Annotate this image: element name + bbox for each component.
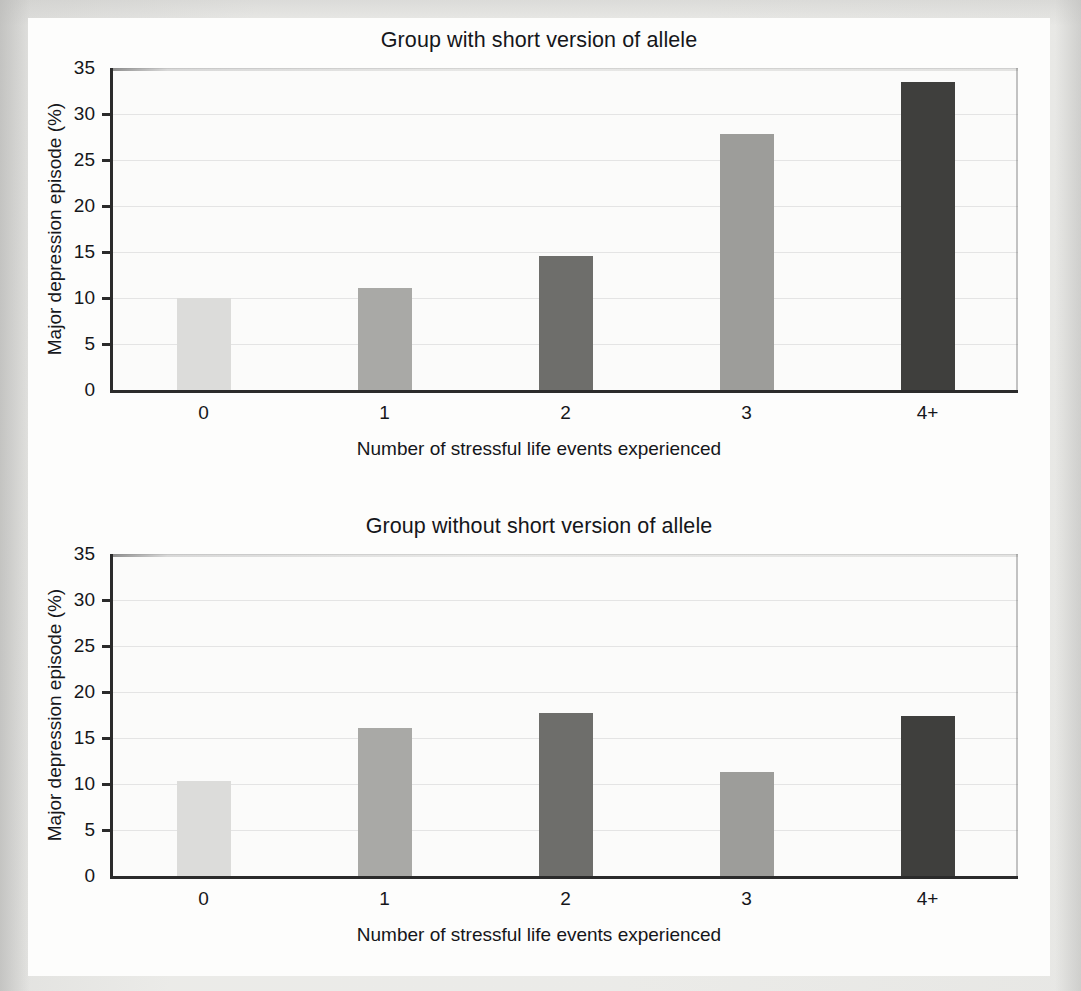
y-axis-tick-label: 25 [74,635,95,657]
plot-area: Major depression episode (%)051015202530… [110,554,1018,879]
plot-area: Major depression episode (%)051015202530… [110,68,1018,393]
x-axis-tick-label: 0 [198,402,209,424]
y-axis-tick-label: 20 [74,195,95,217]
y-axis-tick [102,343,113,346]
y-axis-tick [102,737,113,740]
gridline [113,68,1018,69]
bar [177,298,231,390]
y-axis-tick [102,783,113,786]
y-axis-tick [102,691,113,694]
y-axis-tick-label: 25 [74,149,95,171]
y-axis-tick-label: 35 [74,543,95,565]
gridline [113,206,1018,207]
y-axis-tick-label: 0 [84,865,95,887]
chart-title: Group with short version of allele [28,28,1050,53]
y-axis-title: Major depression episode (%) [44,64,66,394]
x-axis-tick-label: 1 [379,402,390,424]
gridline [113,252,1018,253]
y-axis-tick [102,829,113,832]
chart-panel-without-allele: Group without short version of allele Ma… [28,506,1050,976]
y-axis-tick-label: 30 [74,589,95,611]
x-axis-tick-label: 0 [198,888,209,910]
bar [539,256,593,390]
gridline [113,646,1018,647]
y-axis-tick [102,297,113,300]
x-axis-tick-label: 3 [741,402,752,424]
chart-panel-with-allele: Group with short version of allele Major… [28,20,1050,490]
figure-container: Group with short version of allele Major… [28,18,1050,976]
y-axis-tick-label: 30 [74,103,95,125]
y-axis-tick [102,599,113,602]
y-axis-title: Major depression episode (%) [44,550,66,880]
x-axis-tick-label: 3 [741,888,752,910]
y-axis-tick-label: 5 [84,333,95,355]
x-axis-tick-label: 4+ [917,402,939,424]
page-right-edge-shadow [1055,0,1081,991]
y-axis-tick [102,159,113,162]
y-axis-tick-label: 5 [84,819,95,841]
y-axis-tick-label: 15 [74,241,95,263]
chart-title: Group without short version of allele [28,514,1050,539]
gridline [113,160,1018,161]
x-axis-tick-label: 4+ [917,888,939,910]
bar [358,288,412,390]
bar [901,82,955,390]
y-axis-tick [102,205,113,208]
gridline [113,554,1018,555]
gridline [113,114,1018,115]
x-axis-title: Number of stressful life events experien… [28,924,1050,946]
bar [720,772,774,876]
bar [358,728,412,876]
y-axis-tick [102,113,113,116]
bar [720,134,774,390]
x-axis-tick-label: 2 [560,888,571,910]
plot-right-border [1016,68,1018,390]
x-axis-tick-label: 1 [379,888,390,910]
y-axis-tick-label: 0 [84,379,95,401]
y-axis-tick-label: 20 [74,681,95,703]
bar [901,716,955,876]
y-axis-tick-label: 10 [74,287,95,309]
y-axis-tick-label: 35 [74,57,95,79]
x-axis-title: Number of stressful life events experien… [28,438,1050,460]
bar [539,713,593,876]
page-left-edge-shadow [0,0,30,991]
bar [177,781,231,876]
y-axis-tick [102,251,113,254]
y-axis-tick-label: 10 [74,773,95,795]
x-axis-tick-label: 2 [560,402,571,424]
y-axis-tick [102,645,113,648]
gridline [113,600,1018,601]
gridline [113,692,1018,693]
plot-right-border [1016,554,1018,876]
y-axis-tick-label: 15 [74,727,95,749]
